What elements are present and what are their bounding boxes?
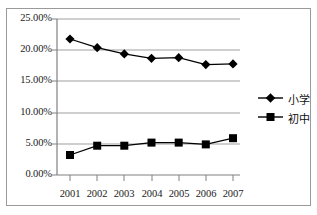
legend-label-chuzhong: 初中: [288, 110, 310, 126]
square-marker-icon: [202, 140, 210, 148]
x-tick-label-2004: 2004: [137, 188, 167, 199]
legend-markers: [258, 93, 283, 121]
y-tick-label-10: 10.00%: [8, 106, 52, 117]
y-tick-label-0: 0.00%: [8, 168, 52, 179]
diamond-marker-icon: [147, 54, 156, 63]
x-tick-label-2001: 2001: [55, 188, 85, 199]
x-tick-label-2005: 2005: [164, 188, 194, 199]
series-2: [66, 134, 237, 159]
diamond-marker-icon: [120, 49, 129, 58]
x-axis-ticks: [70, 175, 233, 181]
series-1: [65, 34, 237, 69]
diamond-marker-icon: [266, 93, 276, 103]
diamond-marker-icon: [65, 34, 74, 43]
diamond-marker-icon: [93, 43, 102, 52]
square-marker-icon: [93, 142, 101, 150]
legend-label-xiaoxue: 小学: [288, 91, 310, 107]
y-tick-label-20: 20.00%: [8, 43, 52, 54]
data-series-layer: [65, 34, 237, 159]
y-tick-label-25: 25.00%: [8, 12, 52, 23]
diamond-marker-icon: [228, 59, 237, 68]
x-tick-label-2006: 2006: [191, 188, 221, 199]
square-marker-icon: [66, 151, 74, 159]
diamond-marker-icon: [201, 60, 210, 69]
y-tick-label-5: 5.00%: [8, 137, 52, 148]
square-marker-icon: [175, 139, 183, 147]
y-tick-label-15: 15.00%: [8, 74, 52, 85]
square-marker-icon: [120, 142, 128, 150]
gridlines: [57, 19, 240, 144]
x-tick-label-2002: 2002: [82, 188, 112, 199]
x-tick-label-2003: 2003: [109, 188, 139, 199]
square-marker-icon: [229, 134, 237, 142]
x-tick-label-2007: 2007: [218, 188, 248, 199]
y-axis-ticks: [52, 19, 57, 175]
diamond-marker-icon: [174, 53, 183, 62]
square-marker-icon: [267, 113, 275, 121]
chart-screenshot: 25.00% 20.00% 15.00% 10.00% 5.00% 0.00% …: [0, 0, 317, 215]
square-marker-icon: [148, 139, 156, 147]
